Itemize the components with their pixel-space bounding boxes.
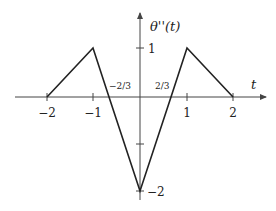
ytick-label-m2: −2 [147,185,165,199]
xtick-label-m2: −2 [38,106,56,120]
xtick-label-m1: −1 [84,106,102,120]
x-axis-label: t [251,77,257,92]
chart: θ''(t) t −2 −1 1 2 1 −2 −2/3 2/3 [0,0,276,211]
xtick-label-1: 1 [183,106,191,120]
root-label-neg: −2/3 [109,81,131,91]
y-axis-label: θ''(t) [150,19,180,34]
root-label-pos: 2/3 [155,81,170,91]
xtick-label-2: 2 [229,106,237,120]
ytick-label-1: 1 [148,42,156,56]
